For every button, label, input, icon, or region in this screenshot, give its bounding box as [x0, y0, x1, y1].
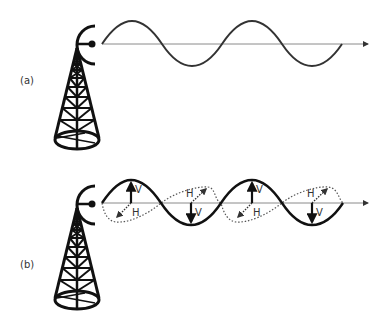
v-label: V — [135, 184, 142, 195]
h-label: H — [307, 188, 315, 199]
polarization-diagram: (a) (b) — [0, 0, 388, 326]
h-arrow-icon — [117, 203, 131, 217]
radio-tower-icon — [55, 26, 99, 149]
panel-a — [55, 21, 368, 149]
h-arrow-icon — [238, 203, 252, 217]
h-label: H — [132, 207, 140, 218]
h-label: H — [186, 188, 194, 199]
panel-b: V H H V V H H V — [55, 180, 368, 309]
v-label: V — [316, 207, 323, 218]
v-label: V — [256, 184, 263, 195]
v-label: V — [195, 207, 202, 218]
h-label: H — [253, 207, 261, 218]
radio-tower-icon — [55, 186, 99, 309]
